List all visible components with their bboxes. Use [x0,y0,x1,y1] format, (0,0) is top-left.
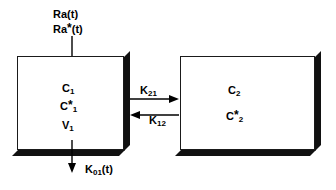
compartment-2-shadow-bottom [175,150,316,156]
compartment-1-concentration-subscript: 1 [70,87,74,96]
rate-k01-symbol: K [85,163,93,175]
input-tracer-rate-prefix: Ra [53,23,67,35]
rate-k12-symbol: K [149,114,157,126]
rate-k21-label: K21 [140,84,157,100]
compartment-2-tracer-subscript: 2 [239,115,243,124]
compartment-1-tracer-subscript: 1 [73,105,77,114]
compartment-2-box [180,56,315,150]
compartment-2-concentration-label: C2 [228,84,240,100]
compartment-1-concentration-label: C1 [62,82,74,98]
compartment-2-shadow-right [315,51,321,151]
compartment-2-tracer-symbol: C [226,110,234,122]
compartment-1-tracer-symbol: C [60,100,68,112]
compartment-1-volume-label: V1 [62,119,74,135]
compartment-2-concentration-subscript: 2 [236,89,240,98]
output-arrow [62,140,82,174]
rate-k01-suffix: (t) [102,163,113,175]
diagram-canvas: Ra(t) Ra*(t) C1 C*1 V1 C2 C*2 K21 K12 K0… [0,0,336,190]
input-rate-label: Ra(t) [53,8,78,20]
rate-k12-subscript: 12 [157,119,166,128]
input-tracer-rate-star: * [67,21,72,35]
rate-k21-subscript: 21 [148,89,157,98]
rate-k12-label: K12 [149,114,166,130]
compartment-1-shadow-right [124,51,130,151]
input-tracer-rate-label: Ra*(t) [53,23,83,35]
compartment-2-tracer-concentration-label: C*2 [226,110,243,126]
compartment-1-tracer-star: * [68,98,73,112]
compartment-2-concentration-symbol: C [228,84,236,96]
rate-k01-subscript: 01 [93,168,102,177]
rate-k21-symbol: K [140,84,148,96]
compartment-2-tracer-star: * [234,108,239,122]
compartment-1-tracer-concentration-label: C*1 [60,100,77,116]
compartment-1-concentration-symbol: C [62,82,70,94]
compartment-1-volume-subscript: 1 [69,124,73,133]
rate-k01-label: K01(t) [85,163,113,179]
input-tracer-rate-suffix: (t) [72,23,83,35]
